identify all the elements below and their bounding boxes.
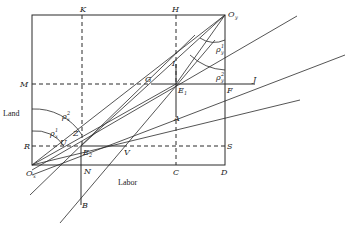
- edgeworth-box-diagram: K H O y M G I E 1 F J A R Z U E 2 V S O …: [0, 0, 347, 230]
- label-U: U: [60, 138, 67, 147]
- label-H: H: [171, 5, 180, 14]
- label-rho-x-1-sup: 1: [55, 127, 58, 133]
- label-rho-y-1-sup: 1: [221, 43, 224, 49]
- label-Oy: O: [228, 10, 235, 19]
- label-E2: E: [82, 148, 89, 157]
- label-G: G: [145, 75, 152, 84]
- ray-Ox-E1: [32, 84, 176, 165]
- label-C: C: [173, 168, 179, 177]
- label-E1-sub: 1: [184, 90, 187, 96]
- label-S: S: [227, 142, 233, 151]
- label-rho-y-2-sup: 2: [220, 71, 224, 77]
- label-rho-x-1-sub: x: [55, 133, 58, 139]
- label-Oy-sub: y: [234, 14, 238, 21]
- label-R: R: [23, 142, 30, 151]
- angle-arc-rho-y-1: [200, 38, 225, 42]
- point-labels: K H O y M G I E 1 F J A R Z U E 2 V S O …: [19, 5, 257, 210]
- label-F: F: [226, 86, 233, 95]
- label-rho-x-2-sup: 2: [66, 110, 70, 116]
- label-A: A: [173, 114, 180, 123]
- ray-Oy-E2: [81, 15, 225, 146]
- label-Z: Z: [72, 129, 79, 138]
- label-V: V: [124, 148, 131, 157]
- price-line-steep-1: [30, 35, 195, 195]
- label-M: M: [19, 80, 29, 89]
- label-rho-x-2-sub: x: [67, 116, 70, 122]
- label-K: K: [79, 5, 87, 14]
- label-E1: E: [177, 86, 184, 95]
- label-rho-y-1-sub: y: [220, 49, 224, 56]
- axis-label-land: Land: [3, 109, 19, 118]
- label-rho-y-2-sub: y: [220, 77, 224, 84]
- label-Ox: O: [26, 169, 33, 178]
- label-B: B: [81, 201, 88, 210]
- axis-label-labor: Labor: [118, 178, 137, 187]
- price-line-steep-2: [60, 40, 215, 223]
- label-D: D: [220, 168, 228, 177]
- label-N: N: [83, 167, 92, 176]
- price-line-upper: [32, 16, 297, 170]
- label-E2-sub: 2: [88, 152, 92, 158]
- label-Ox-sub: x: [33, 173, 36, 179]
- price-line-lower: [32, 55, 345, 175]
- label-J: J: [251, 75, 257, 84]
